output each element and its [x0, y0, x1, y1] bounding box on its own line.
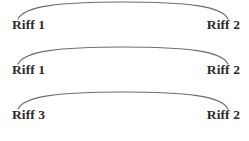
arc-path [18, 47, 228, 64]
riff-label-left: Riff 3 [12, 107, 45, 122]
riff-label-right: Riff 2 [207, 107, 240, 122]
riff-row: Riff 3 Riff 2 [0, 90, 249, 137]
riff-label-right: Riff 2 [207, 62, 240, 77]
riff-arc-diagram: Riff 1 Riff 2 Riff 1 Riff 2 Riff 3 Riff … [0, 0, 249, 141]
riff-row: Riff 1 Riff 2 [0, 45, 249, 92]
riff-label-left: Riff 1 [12, 62, 45, 77]
riff-label-right: Riff 2 [207, 17, 240, 32]
riff-row: Riff 1 Riff 2 [0, 0, 249, 47]
arc-path [18, 92, 228, 109]
arc-path [18, 2, 228, 19]
riff-label-left: Riff 1 [12, 17, 45, 32]
